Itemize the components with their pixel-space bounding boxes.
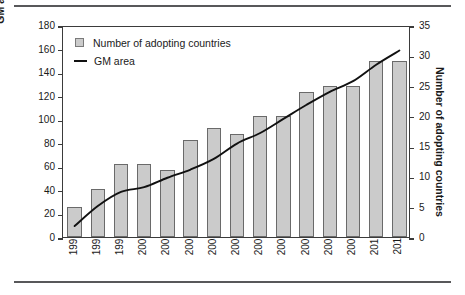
right-tick-0: 0 xyxy=(419,233,445,243)
left-tickmark-120 xyxy=(58,97,63,98)
legend-item-gm-area: GM area xyxy=(75,53,231,68)
right-tick-10: 10 xyxy=(419,172,445,182)
left-tick-80: 80 xyxy=(29,139,55,149)
right-tick-35: 35 xyxy=(419,21,445,31)
right-tickmark-10 xyxy=(409,178,414,179)
left-tick-0: 0 xyxy=(29,233,55,243)
right-tick-25: 25 xyxy=(419,82,445,92)
right-tickmark-20 xyxy=(409,117,414,118)
left-tickmark-0 xyxy=(58,238,63,239)
left-tickmark-20 xyxy=(58,215,63,216)
chart-legend: Number of adopting countries GM area xyxy=(75,35,231,71)
gm-area-line-path xyxy=(75,51,400,226)
right-tick-20: 20 xyxy=(419,112,445,122)
legend-label-gm-area: GM area xyxy=(94,55,135,67)
right-tickmark-30 xyxy=(409,57,414,58)
left-tickmark-60 xyxy=(58,168,63,169)
left-tick-40: 40 xyxy=(29,186,55,196)
right-tickmark-15 xyxy=(409,148,414,149)
left-tickmark-160 xyxy=(58,50,63,51)
right-tick-30: 30 xyxy=(419,51,445,61)
left-tickmark-140 xyxy=(58,74,63,75)
right-tick-5: 5 xyxy=(419,203,445,213)
chart-figure: GM area (million hectares) Number of ado… xyxy=(0,0,465,295)
left-tickmark-40 xyxy=(58,191,63,192)
left-tick-60: 60 xyxy=(29,162,55,172)
legend-item-number-of-adopting-countries: Number of adopting countries xyxy=(75,35,231,50)
plot-area: Number of adopting countries GM area xyxy=(62,26,410,238)
right-tick-15: 15 xyxy=(419,142,445,152)
left-tickmark-80 xyxy=(58,144,63,145)
left-tick-20: 20 xyxy=(29,209,55,219)
right-tickmark-5 xyxy=(409,208,414,209)
left-tick-100: 100 xyxy=(29,115,55,125)
legend-label-countries: Number of adopting countries xyxy=(93,37,231,49)
left-tickmark-180 xyxy=(58,26,63,27)
left-axis-title: GM area (million hectares) xyxy=(0,0,6,48)
right-tickmark-25 xyxy=(409,87,414,88)
right-tickmark-0 xyxy=(409,238,414,239)
left-tick-140: 140 xyxy=(29,68,55,78)
left-tick-180: 180 xyxy=(29,21,55,31)
left-tick-160: 160 xyxy=(29,45,55,55)
right-tickmark-35 xyxy=(409,26,414,27)
left-tick-120: 120 xyxy=(29,92,55,102)
square-swatch-icon xyxy=(75,38,84,47)
left-tickmark-100 xyxy=(58,121,63,122)
line-swatch-icon xyxy=(74,60,87,62)
